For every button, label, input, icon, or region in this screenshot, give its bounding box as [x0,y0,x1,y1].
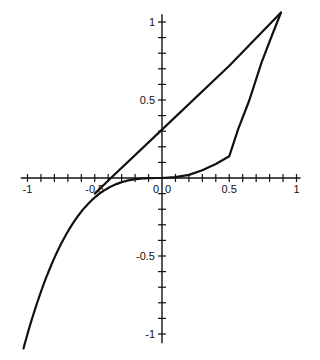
x-tick-label: -0.5 [85,183,104,195]
series-line [95,13,281,194]
x-tick-label: -1 [23,183,33,195]
x-tick-label: 0 [153,183,159,195]
y-tick-label: 0.5 [140,94,155,106]
series-line [162,13,281,178]
x-tick-label: 1 [293,183,299,195]
y-tick-label: -0.5 [136,250,155,262]
chart-plot: -1-0.50.510010.5-0.5-1 [0,0,320,360]
y-origin-label: 0 [165,183,171,195]
y-tick-label: 1 [149,16,155,28]
y-tick-label: -1 [145,328,155,340]
x-tick-label: 0.5 [222,183,237,195]
series-line [24,178,163,349]
